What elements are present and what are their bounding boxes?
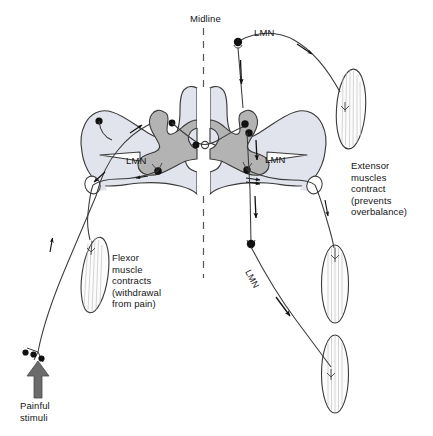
painful-stimuli-arrow bbox=[27, 361, 49, 398]
ventral-median-fissure bbox=[197, 162, 210, 194]
figure-canvas: Midline LMN LMN LMN LMN Extensor muscles… bbox=[0, 0, 433, 436]
label-lmn-right: LMN bbox=[265, 154, 285, 166]
upper-branch-arrow bbox=[297, 44, 312, 54]
lmn-right-axon-to-middle bbox=[315, 185, 334, 248]
dorsal-median-sulcus bbox=[197, 88, 210, 128]
label-painful-stimuli: Painful stimuli bbox=[20, 400, 50, 423]
extensor-muscle-lower-right bbox=[322, 335, 349, 413]
lmn-diagonal-arrow bbox=[276, 297, 290, 316]
label-lmn-left: LMN bbox=[126, 155, 146, 167]
descending-axon-upper bbox=[238, 48, 243, 108]
upper-branch-to-extensor bbox=[241, 33, 349, 112]
descending-tract bbox=[234, 38, 331, 367]
sensory-receptor-endings bbox=[22, 348, 44, 362]
label-extensor-muscles: Extensor muscles contract (prevents over… bbox=[351, 160, 407, 218]
descending-lower-cell-body bbox=[247, 240, 255, 248]
lmn-diagonal-axon bbox=[251, 247, 331, 367]
lmn-right-cell-body-b bbox=[245, 129, 252, 136]
extensor-muscle-upper-right bbox=[334, 68, 369, 150]
label-flexor-muscle: Flexor muscle contracts (withdrawal from… bbox=[112, 252, 161, 310]
descending-axon-lower bbox=[250, 190, 251, 244]
descending-arrow-3 bbox=[255, 196, 256, 218]
label-lmn-top: LMN bbox=[254, 27, 274, 39]
upper-branch-axon bbox=[241, 33, 340, 92]
flexor-muscle bbox=[77, 236, 113, 315]
extensor-muscle-middle-right bbox=[322, 245, 349, 323]
label-midline: Midline bbox=[190, 13, 221, 25]
lmn-right-cell-body-a bbox=[241, 120, 248, 127]
spinal-cord-reflex-diagram bbox=[0, 0, 433, 436]
afferent-direction-arrow bbox=[50, 238, 53, 252]
interneuron-midline bbox=[193, 142, 200, 149]
descending-neuron-cell-body bbox=[234, 38, 242, 46]
